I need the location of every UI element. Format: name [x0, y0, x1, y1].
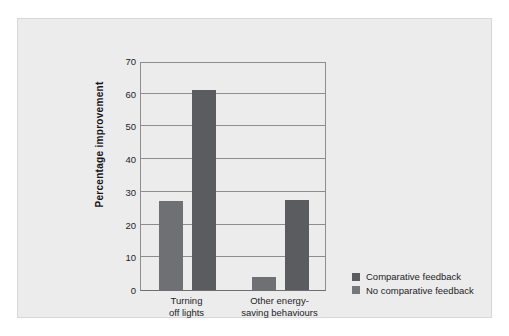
y-axis-tick-label: 60: [110, 90, 136, 100]
y-axis-tick-label: 20: [110, 221, 136, 231]
chart-figure: Percentage improvement 010203040506070 T…: [0, 0, 509, 336]
plot-area: [140, 62, 326, 291]
legend-item: Comparative feedback: [352, 272, 502, 282]
y-axis-tick-label: 10: [110, 253, 136, 263]
gridline: [141, 93, 325, 94]
x-axis-category-labels: Turningoff lightsOther energy-saving beh…: [140, 295, 326, 331]
legend-label: Comparative feedback: [366, 272, 461, 282]
legend-swatch-icon: [352, 286, 360, 294]
chart-frame: Percentage improvement 010203040506070 T…: [17, 18, 492, 318]
y-axis-tick-label: 30: [110, 188, 136, 198]
legend-item: No comparative feedback: [352, 286, 502, 296]
x-axis-category-line: saving behaviours: [233, 307, 326, 319]
bar: [285, 200, 309, 290]
gridline: [141, 125, 325, 126]
x-axis-category-label: Turningoff lights: [140, 295, 233, 331]
x-axis-category-label: Other energy-saving behaviours: [233, 295, 326, 331]
y-axis-tick-label: 70: [110, 57, 136, 67]
y-axis-tick-labels: 010203040506070: [108, 62, 136, 291]
chart-legend: Comparative feedbackNo comparative feedb…: [352, 272, 502, 299]
bar: [192, 90, 216, 290]
y-axis-tick-label: 40: [110, 155, 136, 165]
x-axis-category-line: Other energy-: [233, 295, 326, 307]
y-axis-tick-label: 50: [110, 122, 136, 132]
legend-label: No comparative feedback: [366, 286, 474, 296]
gridline: [141, 191, 325, 192]
x-axis-category-line: off lights: [140, 307, 233, 319]
gridline: [141, 158, 325, 159]
y-axis-tick-label: 0: [110, 286, 136, 296]
x-axis-category-line: Turning: [140, 295, 233, 307]
bar: [252, 277, 276, 290]
y-axis-title: Percentage improvement: [94, 55, 105, 235]
legend-swatch-icon: [352, 273, 360, 281]
bar: [159, 201, 183, 290]
